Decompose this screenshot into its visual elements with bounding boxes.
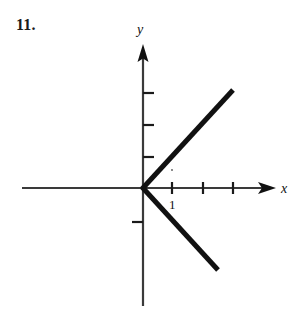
ink-speck bbox=[171, 169, 173, 171]
figure-root: 11. y x 1 bbox=[0, 0, 294, 323]
x-axis-label: x bbox=[280, 181, 288, 196]
graph-ray-upper bbox=[142, 90, 233, 189]
coordinate-plot: y x 1 bbox=[0, 0, 294, 323]
graph-ray-lower bbox=[142, 187, 218, 270]
x-tick-label-1: 1 bbox=[169, 197, 176, 212]
y-axis-label: y bbox=[135, 22, 144, 37]
